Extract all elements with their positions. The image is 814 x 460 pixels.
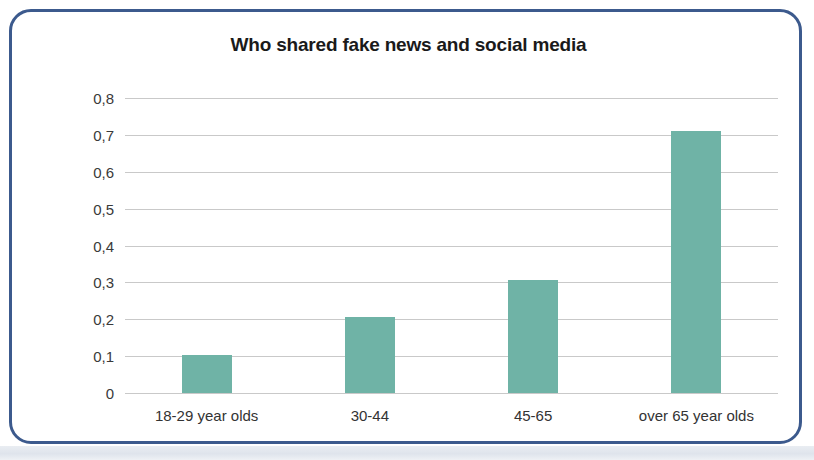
y-axis-tick-label: 0 (106, 385, 114, 402)
bar (182, 355, 232, 393)
bars-layer: 18-29 year olds30-4445-65over 65 year ol… (125, 98, 778, 393)
chart-title: Who shared fake news and social media (12, 34, 805, 56)
bar-group: over 65 year olds (615, 98, 778, 393)
y-axis-tick-label: 0,5 (93, 200, 114, 217)
x-axis-category-label: over 65 year olds (639, 407, 754, 424)
bar-group: 18-29 year olds (125, 98, 288, 393)
bar (671, 131, 721, 393)
y-axis-tick-label: 0,3 (93, 274, 114, 291)
bar-group: 30-44 (288, 98, 451, 393)
plot-area: 0,80,70,60,50,40,30,20,10 18-29 year old… (125, 98, 778, 393)
y-axis-tick-label: 0,6 (93, 163, 114, 180)
y-axis-tick-label: 0,2 (93, 311, 114, 328)
bar-group: 45-65 (452, 98, 615, 393)
x-axis-category-label: 18-29 year olds (155, 407, 258, 424)
x-axis-category-label: 30-44 (351, 407, 389, 424)
x-axis-category-label: 45-65 (514, 407, 552, 424)
y-axis-tick-label: 0,4 (93, 237, 114, 254)
bar (345, 317, 395, 393)
gridline: 0 (125, 393, 778, 394)
y-axis-tick-label: 0,7 (93, 126, 114, 143)
y-axis-tick-label: 0,8 (93, 90, 114, 107)
y-axis-tick-label: 0,1 (93, 348, 114, 365)
figure-frame: Who shared fake news and social media 0,… (9, 9, 802, 444)
chart-page: Who shared fake news and social media 0,… (0, 0, 814, 460)
bar (508, 280, 558, 393)
paper-background-band (0, 446, 814, 460)
